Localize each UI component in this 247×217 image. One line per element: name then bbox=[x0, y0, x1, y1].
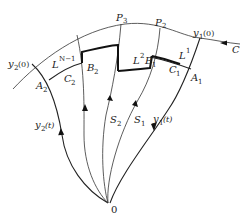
svg-text:L: L bbox=[132, 55, 140, 66]
svg-text:1: 1 bbox=[186, 47, 190, 55]
svg-text:1: 1 bbox=[152, 61, 156, 69]
label-s1: S 1 bbox=[134, 114, 145, 128]
svg-text:N−1: N−1 bbox=[59, 55, 75, 63]
svg-text:P: P bbox=[154, 17, 162, 28]
arrow-left-inner bbox=[82, 104, 88, 111]
svg-text:y: y bbox=[7, 58, 14, 69]
svg-text:2: 2 bbox=[162, 22, 166, 30]
label-a1: A 1 bbox=[190, 72, 202, 86]
svg-text:1: 1 bbox=[141, 120, 145, 128]
label-l1: L 1 bbox=[178, 47, 190, 61]
label-y1-0: y 1 (0) bbox=[192, 27, 214, 41]
label-c2: C 2 bbox=[64, 73, 75, 87]
svg-text:3: 3 bbox=[123, 17, 127, 25]
svg-text:(t): (t) bbox=[163, 115, 172, 124]
diagram-canvas: y 2 (0) y 1 (0) P 3 P 2 C L N−1 L 2 L 1 … bbox=[0, 0, 247, 217]
label-p3: P 3 bbox=[115, 12, 127, 25]
trajectory-y2 bbox=[32, 64, 108, 203]
label-y2-0: y 2 (0) bbox=[7, 58, 29, 72]
label-b2: B 2 bbox=[86, 62, 98, 76]
label-c1: C 1 bbox=[169, 64, 180, 78]
svg-text:2: 2 bbox=[117, 120, 121, 128]
label-s2: S 2 bbox=[110, 114, 121, 128]
svg-text:S: S bbox=[134, 114, 141, 125]
svg-text:2: 2 bbox=[94, 68, 98, 76]
svg-text:A: A bbox=[35, 80, 43, 91]
arrow-y2 bbox=[58, 128, 64, 135]
svg-text:y: y bbox=[192, 27, 199, 38]
label-l2: L 2 bbox=[132, 52, 144, 66]
svg-text:P: P bbox=[115, 12, 123, 23]
svg-text:y: y bbox=[152, 113, 159, 124]
label-y2-t: y 2 (t) bbox=[34, 119, 54, 133]
svg-text:2: 2 bbox=[140, 52, 144, 60]
svg-text:(0): (0) bbox=[203, 29, 214, 38]
svg-text:L: L bbox=[178, 50, 186, 61]
label-c: C bbox=[232, 44, 240, 55]
svg-text:L: L bbox=[51, 59, 59, 70]
svg-text:(0): (0) bbox=[18, 60, 29, 69]
label-l-n-1: L N−1 bbox=[51, 55, 75, 70]
arrow-s2 bbox=[107, 95, 113, 101]
svg-text:(t): (t) bbox=[45, 121, 54, 130]
svg-text:1: 1 bbox=[176, 70, 180, 78]
svg-text:S: S bbox=[110, 114, 117, 125]
svg-text:2: 2 bbox=[71, 79, 75, 87]
svg-text:1: 1 bbox=[198, 78, 202, 86]
svg-text:A: A bbox=[190, 72, 198, 83]
svg-text:y: y bbox=[34, 119, 41, 130]
svg-text:2: 2 bbox=[43, 86, 47, 94]
label-origin: 0 bbox=[111, 204, 117, 215]
